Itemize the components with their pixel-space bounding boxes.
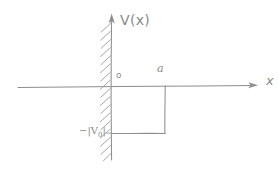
well-width-label: a bbox=[157, 63, 164, 74]
hatch-stroke bbox=[100, 113, 110, 122]
hatch-stroke bbox=[101, 48, 111, 57]
well-depth-prefix: −|V bbox=[79, 125, 98, 136]
v-axis-line bbox=[111, 17, 112, 160]
origin-label: o bbox=[116, 71, 122, 80]
wall-hatching-group bbox=[100, 23, 111, 160]
hatch-stroke bbox=[101, 31, 111, 40]
x-axis-group bbox=[18, 82, 258, 88]
hatch-stroke bbox=[103, 154, 110, 161]
hatch-stroke bbox=[101, 89, 111, 98]
x-axis-label: x bbox=[266, 74, 274, 87]
well-depth-suffix: | bbox=[102, 125, 105, 136]
well-depth-label: −|V0| bbox=[79, 126, 106, 139]
hatch-stroke bbox=[101, 64, 111, 73]
hatch-stroke bbox=[101, 40, 111, 49]
hatch-stroke bbox=[101, 72, 111, 81]
hatch-stroke bbox=[100, 97, 110, 106]
hatch-stroke bbox=[101, 105, 111, 114]
hatch-stroke bbox=[101, 146, 111, 155]
hatch-stroke bbox=[101, 56, 111, 65]
hatch-stroke bbox=[100, 80, 110, 89]
sketch-canvas: V(x) x o a −|V0| bbox=[0, 0, 279, 169]
x-axis-line bbox=[18, 85, 252, 87]
hatch-stroke bbox=[101, 23, 110, 32]
potential-well-curve bbox=[111, 86, 165, 134]
v-axis-label: V(x) bbox=[120, 13, 150, 27]
